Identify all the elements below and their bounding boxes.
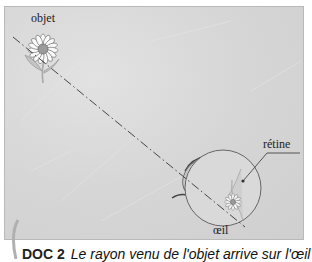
vision-diagram bbox=[5, 7, 304, 240]
retina-pointer-dot bbox=[241, 179, 244, 182]
caption-text: Le rayon venu de l'objet arrive sur l'œi… bbox=[71, 246, 311, 262]
figure-caption: DOC 2Le rayon venu de l'objet arrive sur… bbox=[22, 246, 310, 262]
label-retina: rétine bbox=[263, 137, 290, 152]
label-eye: œil bbox=[213, 223, 228, 238]
eye-icon bbox=[172, 150, 261, 226]
diagram-panel: objet rétine œil bbox=[4, 6, 304, 240]
label-object: objet bbox=[31, 11, 55, 26]
decorative-hook-icon bbox=[8, 218, 22, 259]
object-flower-icon bbox=[25, 34, 59, 83]
caption-doc-number: DOC 2 bbox=[22, 246, 65, 262]
light-ray-line bbox=[13, 37, 245, 227]
